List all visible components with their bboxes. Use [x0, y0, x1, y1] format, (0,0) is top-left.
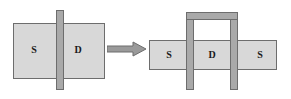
right-figure: S D S [0, 0, 291, 99]
right-gate-right-leg [230, 12, 238, 90]
right-source-left-label: S [161, 50, 177, 60]
right-gate-top-crossbar [186, 12, 238, 20]
diagram-canvas: S D S D S [0, 0, 291, 99]
right-source-right-label: S [252, 50, 268, 60]
right-drain-label: D [204, 50, 220, 60]
right-gate-left-leg [186, 12, 194, 90]
